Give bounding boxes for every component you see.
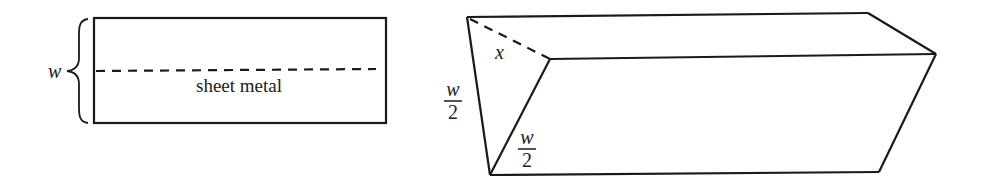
fraction-denominator: 2 [448, 101, 458, 123]
right-top-edge [868, 13, 936, 54]
fold-x-dashed [470, 19, 550, 59]
sheet-metal-figure: w sheet metal [48, 18, 386, 123]
trough-figure [467, 13, 936, 175]
width-label: w [48, 60, 62, 82]
left-side-edge [467, 17, 490, 175]
right-bottom-edge [879, 54, 936, 172]
bottom-edge [490, 172, 879, 175]
inner-top-edge [550, 54, 936, 59]
fraction-numerator: w [520, 126, 534, 148]
width-brace-icon [67, 19, 88, 123]
side-label-left-fraction: w 2 [444, 78, 462, 123]
fold-label-x: x [494, 41, 504, 63]
side-label-inner-fraction: w 2 [518, 126, 536, 171]
sheet-caption: sheet metal [196, 75, 282, 96]
fraction-denominator: 2 [522, 149, 532, 171]
diagram-canvas: w sheet metal x w 2 w 2 [0, 0, 982, 187]
top-back-edge [467, 13, 868, 17]
sheet-rectangle [94, 18, 386, 123]
inner-slant-edge [490, 59, 550, 175]
fold-line-dashed [96, 69, 376, 71]
trough-labels: x w 2 w 2 [444, 41, 536, 171]
fraction-numerator: w [446, 78, 460, 100]
